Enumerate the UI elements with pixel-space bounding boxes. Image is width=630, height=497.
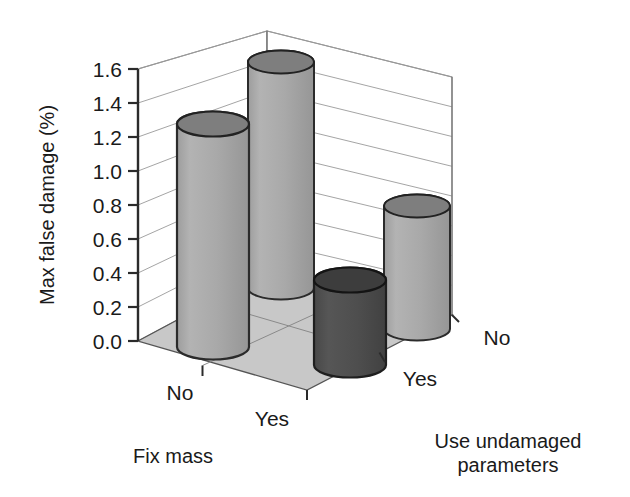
z-axis-title-line2: parameters	[457, 454, 558, 476]
y-tick-label-0: 0.0	[93, 330, 122, 353]
bar-yes-yes[interactable]	[314, 268, 386, 378]
bar-chart-3d: 0.0 0.2 0.4 0.6 0.8 1.0 1.2 1.4 1.6 Max …	[0, 0, 630, 497]
bar-no-yes-top	[177, 112, 249, 137]
y-tick-label-4: 0.8	[93, 194, 122, 217]
bar-yes-yes-top	[314, 268, 386, 293]
y-tick-label-8: 1.6	[93, 58, 122, 81]
x-tick-label-no: No	[167, 381, 194, 404]
z-tick-label-yes: Yes	[403, 367, 437, 390]
bar-no-yes[interactable]	[177, 112, 249, 360]
bar-yes-no-top	[384, 195, 450, 218]
y-axis-title: Max false damage (%)	[36, 105, 58, 305]
y-tick-label-1: 0.2	[93, 296, 122, 319]
y-tick-label-2: 0.4	[93, 262, 123, 285]
y-tick-label-3: 0.6	[93, 228, 122, 251]
y-tick-label-6: 1.2	[93, 126, 122, 149]
bar-yes-no[interactable]	[384, 195, 450, 341]
y-tick-label-7: 1.4	[93, 92, 123, 115]
bar-no-no[interactable]	[248, 51, 314, 300]
y-tick-label-5: 1.0	[93, 160, 122, 183]
x-tick-label-yes: Yes	[255, 407, 289, 430]
z-tick-label-no: No	[484, 326, 511, 349]
z-axis-title-line1: Use undamaged	[435, 430, 582, 452]
bar-no-no-top	[248, 51, 314, 74]
x-axis-title: Fix mass	[133, 445, 213, 467]
